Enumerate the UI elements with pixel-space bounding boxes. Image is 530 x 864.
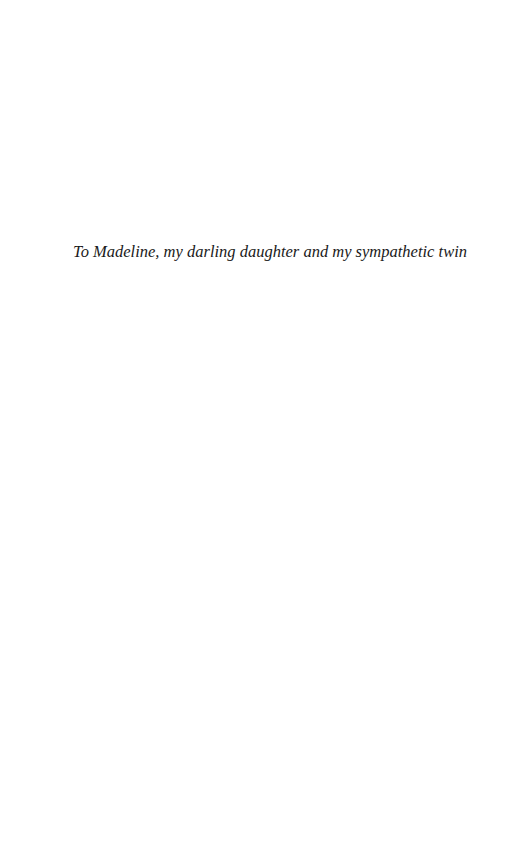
book-page: To Madeline, my darling daughter and my …	[0, 0, 530, 864]
dedication-text: To Madeline, my darling daughter and my …	[73, 242, 467, 262]
